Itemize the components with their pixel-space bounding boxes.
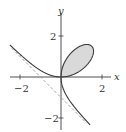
x-axis-label: x xyxy=(114,71,120,82)
y-tick-label-neg2: −2 xyxy=(44,113,59,124)
folium-plot: −2 2 2 −2 x y xyxy=(0,0,126,132)
y-tick-label-pos2: 2 xyxy=(50,31,56,42)
folium-branch-upper-left xyxy=(10,45,61,77)
y-axis-label: y xyxy=(57,5,64,16)
x-tick-label-neg2: −2 xyxy=(14,83,29,94)
x-tick-label-pos2: 2 xyxy=(99,83,105,94)
